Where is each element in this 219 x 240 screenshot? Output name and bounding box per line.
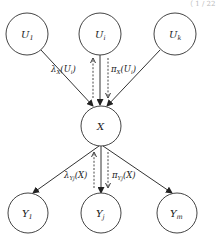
message-lambda-yj-x-label: λYj(X)	[63, 170, 87, 182]
node-yj: Yj	[81, 193, 121, 233]
node-x: X	[81, 106, 121, 146]
message-pi-x-ui-label: πX(Ui)	[110, 64, 136, 75]
node-u1: U1	[6, 13, 48, 55]
message-lambda-x-ui-label: λX(Ui)	[50, 64, 76, 75]
node-ui: Ui	[79, 13, 121, 55]
node-y1: Y1	[8, 193, 48, 233]
bayesian-network-diagram: （ 1 / 22 λX(Ui) πX(Ui) λYj(X) πYj(X) U1 …	[0, 0, 219, 240]
node-ym: Ym	[157, 193, 197, 233]
message-pi-yj-x-label: πYj(X)	[111, 170, 136, 182]
edge-uk-x	[107, 50, 160, 106]
edge-u1-x	[41, 50, 93, 106]
svg-text:X: X	[96, 121, 105, 132]
corner-fragment: （ 1 / 22	[186, 0, 215, 8]
node-uk: Uk	[154, 13, 196, 55]
